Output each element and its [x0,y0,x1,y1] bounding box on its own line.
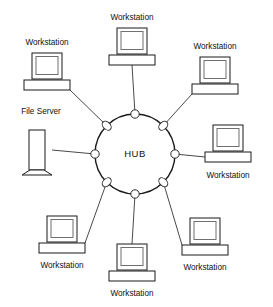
node-label: Workstation [40,261,84,270]
node-label: Workstation [183,263,227,272]
node-workstation-top-left[interactable]: Workstation [24,38,70,90]
node-label: Workstation [206,171,250,180]
node-label: Workstation [25,38,69,47]
hub-port-1[interactable] [171,150,179,158]
hub-port-3[interactable] [131,190,139,198]
node-file-server[interactable]: File Server [21,107,61,175]
node-workstation-right[interactable]: Workstation [205,125,251,180]
link-hub-to-workstation-top-center [132,65,135,114]
hub-port-5[interactable] [91,150,99,158]
node-workstation-bottom-center[interactable]: Workstation [109,244,155,298]
node-label: Workstation [193,42,237,51]
link-hub-to-workstation-bottom-left [85,182,107,243]
link-hub-to-workstation-top-left [70,90,107,126]
hub-label: HUB [124,148,145,159]
node-workstation-top-center[interactable]: Workstation [109,13,155,65]
diagram-canvas: WorkstationWorkstationWorkstationWorksta… [0,0,273,307]
link-hub-to-workstation-bottom-center [132,194,135,244]
hub-port-7[interactable] [131,110,139,118]
link-hub-to-workstation-top-right [163,94,192,126]
node-label: Workstation [110,13,154,22]
node-workstation-top-right[interactable]: Workstation [192,42,238,94]
node-workstation-bottom-left[interactable]: Workstation [39,216,85,270]
link-hub-to-file-server [52,150,95,154]
network-topology-diagram: WorkstationWorkstationWorkstationWorksta… [0,0,273,307]
node-workstation-bottom-right[interactable]: Workstation [182,218,228,272]
node-label: Workstation [110,289,154,298]
link-hub-to-workstation-bottom-right [163,182,182,245]
node-label: File Server [21,107,61,116]
